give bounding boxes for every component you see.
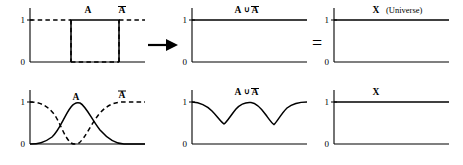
panel-fuzzy-sets: A A 1 0	[14, 82, 149, 164]
panel-crisp-union: A ∪ A 1 0	[176, 0, 311, 82]
curve-label-a-bar: A	[119, 90, 126, 100]
y-tick-one: 1	[325, 15, 330, 25]
panel-crisp-universe: X (Universe) 1 0	[318, 0, 453, 82]
y-tick-zero: 0	[183, 139, 188, 149]
curve-label-union-right: A	[252, 87, 259, 97]
y-tick-one: 1	[325, 97, 330, 107]
panel-fuzzy-union: A ∪ A 1 0	[176, 82, 311, 164]
curve-label-union-left: A	[235, 87, 242, 97]
panel-fuzzy-universe: X 1 0	[318, 82, 453, 164]
curve-label-a: A	[85, 5, 92, 15]
curve-label-x: X	[373, 87, 380, 97]
universe-note: (Universe)	[386, 5, 423, 15]
curve-label-x: X	[373, 5, 380, 15]
arrow-right-icon-crisp	[146, 28, 180, 62]
y-tick-one: 1	[21, 97, 26, 107]
y-tick-one: 1	[183, 15, 188, 25]
crisp-set-row: A A 1 0 A ∪	[0, 0, 463, 82]
y-tick-one: 1	[183, 97, 188, 107]
y-tick-zero: 0	[325, 139, 330, 149]
curve-label-a: A	[73, 92, 80, 102]
excluded-middle-figure: A A 1 0 A ∪	[0, 0, 463, 165]
y-tick-zero: 0	[21, 139, 26, 149]
y-tick-zero: 0	[21, 57, 26, 67]
union-operator-symbol: ∪	[244, 87, 250, 96]
panel-crisp-sets: A A 1 0	[14, 0, 149, 82]
y-tick-zero: 0	[325, 57, 330, 67]
curve-label-union-right: A	[252, 5, 259, 15]
curve-label-union-left: A	[235, 5, 242, 15]
y-tick-zero: 0	[183, 57, 188, 67]
union-operator-symbol: ∪	[244, 5, 250, 14]
curve-label-a-bar: A	[119, 5, 126, 15]
y-tick-one: 1	[21, 15, 26, 25]
fuzzy-set-row: A A 1 0 A ∪	[0, 82, 463, 164]
